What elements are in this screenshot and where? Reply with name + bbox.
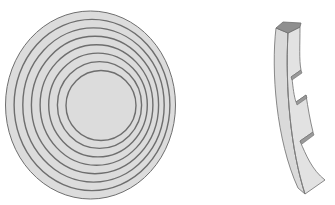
figure-canvas bbox=[0, 0, 335, 205]
curved-stepped-segment bbox=[274, 22, 325, 194]
ring-8 bbox=[66, 71, 136, 141]
concentric-rings-disc bbox=[6, 11, 176, 199]
figure: concentric-rings-disc curved-stepped-seg… bbox=[0, 0, 335, 205]
